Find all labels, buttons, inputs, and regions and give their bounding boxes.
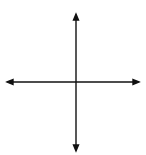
x-axis-arrow-right-icon [133, 80, 139, 85]
x-axis-arrow-left-icon [7, 80, 13, 85]
y-axis-arrow-up-icon [74, 14, 79, 20]
axes [7, 14, 139, 151]
coordinate-plane [0, 0, 146, 155]
y-axis-arrow-down-icon [74, 145, 79, 151]
